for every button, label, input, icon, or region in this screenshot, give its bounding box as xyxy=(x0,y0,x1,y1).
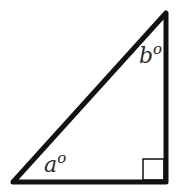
angle-b-label: bo xyxy=(139,40,162,68)
angle-a-label: ao xyxy=(44,149,66,177)
right-triangle-diagram: ao bo xyxy=(0,0,180,195)
right-angle-marker xyxy=(143,159,164,180)
triangle-outline xyxy=(13,13,166,182)
